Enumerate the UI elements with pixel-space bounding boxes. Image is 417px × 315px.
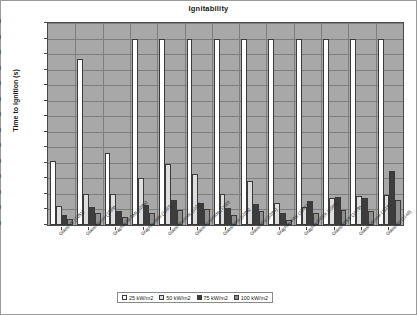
legend-label: 50 kW/m2 — [166, 295, 190, 301]
bar-group — [103, 23, 130, 225]
bar-group — [185, 23, 212, 225]
legend-item[interactable]: 50 kW/m2 — [159, 295, 190, 301]
y-axis-tick-label: 300 — [0, 128, 1, 134]
bar-group — [376, 23, 403, 225]
chart-container: Ignitability Time to ignition (s) 050100… — [0, 0, 417, 315]
legend-item[interactable]: 75 kW/m2 — [197, 295, 228, 301]
chart-legend: 25 kW/m250 kW/m275 kW/m2100 kW/m2 — [117, 292, 273, 303]
legend-label: 75 kW/m2 — [204, 295, 228, 301]
bar-group — [212, 23, 239, 225]
bar[interactable] — [296, 39, 302, 225]
legend-label: 25 kW/m2 — [129, 295, 153, 301]
legend-label: 100 kW/m2 — [241, 295, 268, 301]
y-axis-tick-label: 450 — [0, 81, 1, 87]
y-axis-tick-label: 0 — [0, 221, 1, 227]
y-axis-tick-label: 100 — [0, 190, 1, 196]
y-axis-tick-label: 600 — [0, 35, 1, 41]
y-axis-tick-label: 200 — [0, 159, 1, 165]
y-axis-tick-label: 150 — [0, 174, 1, 180]
y-axis-tick-label: 550 — [0, 50, 1, 56]
y-axis-tick-label: 250 — [0, 143, 1, 149]
bar-group — [130, 23, 157, 225]
plot-area — [47, 22, 404, 226]
bar-group — [239, 23, 266, 225]
legend-swatch — [197, 295, 202, 300]
y-axis-tick-label: 350 — [0, 112, 1, 118]
legend-swatch — [234, 295, 239, 300]
legend-item[interactable]: 100 kW/m2 — [234, 295, 268, 301]
bar-group — [75, 23, 102, 225]
y-axis-tick-label: 50 — [0, 205, 1, 211]
legend-swatch — [122, 295, 127, 300]
y-axis-tick-label: 500 — [0, 66, 1, 72]
legend-swatch — [159, 295, 164, 300]
bar[interactable] — [268, 39, 274, 225]
bar-group — [48, 23, 75, 225]
bar-group — [157, 23, 184, 225]
y-axis-title: Time to ignition (s) — [12, 56, 19, 146]
legend-item[interactable]: 25 kW/m2 — [122, 295, 153, 301]
bar-group — [266, 23, 293, 225]
bar-group — [294, 23, 321, 225]
bar-group — [348, 23, 375, 225]
y-axis-tick-label: 650 — [0, 19, 1, 25]
y-axis-tick-label: 400 — [0, 97, 1, 103]
bar-group — [321, 23, 348, 225]
chart-title: Ignitability — [1, 4, 416, 13]
